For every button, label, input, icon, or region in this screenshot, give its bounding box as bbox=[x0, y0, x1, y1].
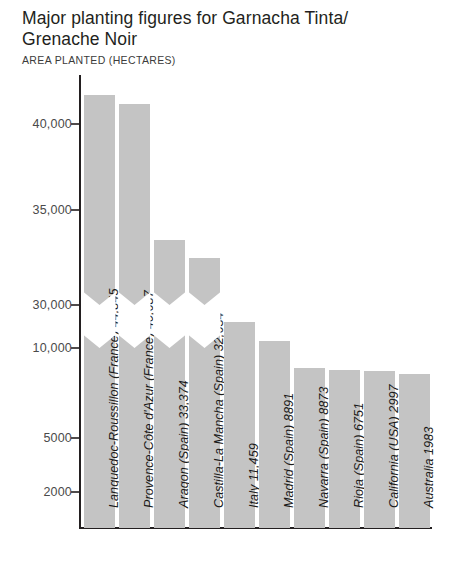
chart-container: Major planting figures for Garnacha Tint… bbox=[0, 0, 450, 561]
bar-label-text: Australia 1983 bbox=[422, 427, 436, 508]
plot-area: 40,00035,00030,00010,00050002000 Langued… bbox=[0, 0, 450, 561]
bars-layer: Languedoc-Roussillon (France) 44,845Prov… bbox=[0, 0, 450, 561]
